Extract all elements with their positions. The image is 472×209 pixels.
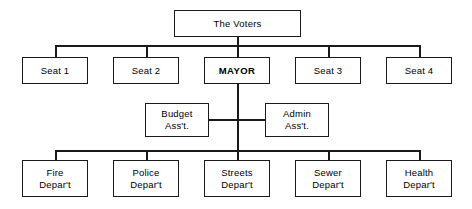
node-label-mayor: MAYOR: [217, 65, 258, 77]
node-streets[interactable]: Streets Depar't: [204, 160, 270, 197]
connector-mayor-spine: [237, 84, 239, 160]
node-label-sewer: Sewer Depar't: [310, 167, 346, 191]
connector-seat2-riser: [146, 45, 148, 57]
node-label-admin: Admin Ass't.: [281, 108, 313, 132]
node-label-police: Police Depar't: [128, 167, 164, 191]
node-label-budget: Budget Ass't.: [159, 108, 194, 132]
node-sewer[interactable]: Sewer Depar't: [295, 160, 361, 197]
node-label-seat1: Seat 1: [39, 65, 72, 77]
connector-seat1-riser: [55, 45, 57, 57]
connector-mayor-riser: [237, 45, 239, 57]
connector-seat3-riser: [328, 45, 330, 57]
org-chart-canvas: The VotersSeat 1Seat 2MAYORSeat 3Seat 4B…: [0, 0, 472, 209]
node-label-seat4: Seat 4: [403, 65, 436, 77]
connector-admin-link: [237, 119, 266, 121]
node-admin[interactable]: Admin Ass't.: [265, 103, 329, 137]
node-seat2[interactable]: Seat 2: [113, 57, 179, 84]
node-police[interactable]: Police Depar't: [113, 160, 179, 197]
node-seat1[interactable]: Seat 1: [22, 57, 88, 84]
node-seat3[interactable]: Seat 3: [295, 57, 361, 84]
node-mayor[interactable]: MAYOR: [204, 57, 270, 84]
node-label-streets: Streets Depar't: [219, 167, 255, 191]
node-label-seat3: Seat 3: [312, 65, 345, 77]
node-budget[interactable]: Budget Ass't.: [145, 103, 209, 137]
connector-budget-link: [209, 119, 238, 121]
node-label-fire: Fire Depar't: [37, 167, 73, 191]
node-fire[interactable]: Fire Depar't: [22, 160, 88, 197]
connector-voters-drop: [237, 37, 239, 45]
node-seat4[interactable]: Seat 4: [386, 57, 452, 84]
node-health[interactable]: Health Depar't: [386, 160, 452, 197]
node-label-voters: The Voters: [212, 18, 264, 30]
node-voters[interactable]: The Voters: [174, 10, 301, 37]
node-label-seat2: Seat 2: [130, 65, 163, 77]
node-label-health: Health Depar't: [401, 167, 437, 191]
connector-seat4-riser: [419, 45, 421, 57]
